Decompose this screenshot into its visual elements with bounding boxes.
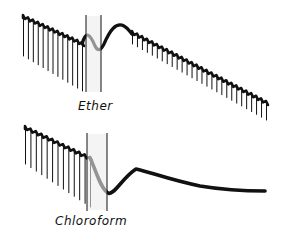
ether-trace xyxy=(23,15,268,120)
kymograph-figure xyxy=(0,0,287,244)
chloroform-stimulus-band xyxy=(87,134,107,210)
ether-label: Ether xyxy=(78,99,113,113)
chloroform-trace xyxy=(25,126,265,207)
chloroform-label: Chloroform xyxy=(55,214,127,228)
ether-stimulus-band xyxy=(86,16,101,92)
